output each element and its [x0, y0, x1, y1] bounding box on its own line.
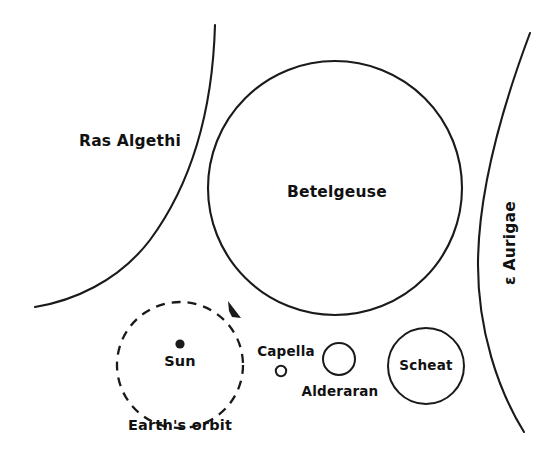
ras-algethi-arc [35, 25, 215, 307]
epsilon-aurigae-label: ε Aurigae [501, 201, 519, 285]
sun-dot [175, 339, 184, 348]
sun-label: Sun [164, 353, 196, 369]
earths-orbit-label: Earth's orbit [128, 417, 232, 433]
stellar-size-comparison-diagram: Ras Algethi Betelgeuse ε Aurigae Sun Ear… [0, 0, 556, 453]
ras-algethi-label: Ras Algethi [79, 132, 181, 150]
scheat-label: Scheat [399, 357, 453, 373]
diagram-canvas: Ras Algethi Betelgeuse ε Aurigae Sun Ear… [0, 0, 556, 453]
orbit-direction-arrow-icon [228, 301, 241, 318]
capella-label: Capella [257, 343, 315, 359]
alderaran-circle [323, 343, 355, 375]
capella-circle [276, 366, 286, 376]
betelgeuse-label: Betelgeuse [287, 183, 387, 201]
alderaran-label: Alderaran [302, 383, 379, 399]
